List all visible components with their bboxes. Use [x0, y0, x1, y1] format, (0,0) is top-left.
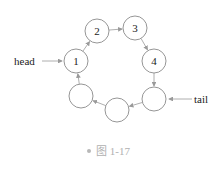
list-node	[69, 84, 93, 108]
node-circle-icon	[142, 87, 166, 111]
nodes: 1234	[64, 16, 166, 122]
head-pointer: head	[14, 55, 62, 67]
list-node: 1	[64, 49, 88, 73]
edge-arrow-icon	[129, 102, 142, 106]
edge-arrow-icon	[93, 101, 106, 106]
edge-arrow-icon	[78, 74, 79, 84]
edge-arrow-icon	[141, 38, 148, 49]
tail-label: tail	[194, 93, 208, 105]
list-node	[142, 87, 166, 111]
figure-caption: 图 1-17	[0, 142, 217, 158]
head-label: head	[14, 55, 35, 67]
edge-arrow-icon	[83, 42, 90, 52]
caption-text: 图 1-17	[96, 145, 130, 157]
list-node: 2	[85, 19, 109, 43]
tail-pointer: tail	[169, 93, 208, 105]
edge-arrow-icon	[109, 29, 122, 30]
list-node: 4	[142, 49, 166, 73]
node-label: 2	[94, 25, 100, 37]
node-label: 1	[73, 55, 79, 67]
node-circle-icon	[105, 98, 129, 122]
node-label: 3	[132, 22, 138, 34]
list-node: 3	[123, 16, 147, 40]
bullet-icon	[87, 149, 91, 153]
node-circle-icon	[69, 84, 93, 108]
list-node	[105, 98, 129, 122]
node-label: 4	[151, 55, 157, 67]
